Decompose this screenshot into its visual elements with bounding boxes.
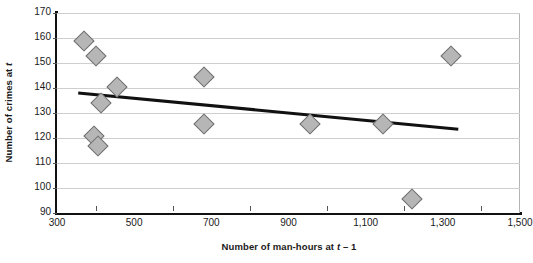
x-minor-tick-1200 [404,206,405,211]
x-tick-label-1500: 1,500 [507,217,532,228]
y-tick-label-150: 150 [25,56,51,67]
trend-line [57,13,520,213]
y-tick-label-130: 130 [25,106,51,117]
y-axis-title-text: Number of crimes at [4,66,15,163]
x-minor-tick-400 [96,206,97,211]
x-tick-label-1300: 1,300 [430,217,455,228]
x-minor-tick-1400 [481,206,482,211]
x-axis-title-text: Number of man-hours at [222,241,337,252]
y-tick-label-120: 120 [25,131,51,142]
y-tick-label-110: 110 [25,156,51,167]
x-axis-title-suffix: – 1 [340,241,356,252]
x-minor-tick-1000 [327,206,328,211]
x-tick-label-700: 700 [203,217,220,228]
x-tick-label-1100: 1,100 [353,217,378,228]
x-axis-title: Number of man-hours at t – 1 [57,241,521,252]
y-tick-label-100: 100 [25,181,51,192]
y-tick-label-90: 90 [25,206,51,217]
y-tick-mark-90 [53,213,57,214]
x-minor-tick-800 [250,206,251,211]
y-axis-title-italic: t [4,63,15,66]
plot-area [57,13,520,213]
y-tick-label-140: 140 [25,81,51,92]
y-tick-label-170: 170 [25,6,51,17]
y-tick-label-160: 160 [25,31,51,42]
x-tick-label-300: 300 [49,217,66,228]
x-minor-tick-600 [173,206,174,211]
x-tick-label-500: 500 [126,217,143,228]
y-axis-title: Number of crimes at t [0,0,18,225]
scatter-chart: Number of crimes at t 901001101201301401… [0,0,533,263]
x-tick-label-900: 900 [280,217,297,228]
